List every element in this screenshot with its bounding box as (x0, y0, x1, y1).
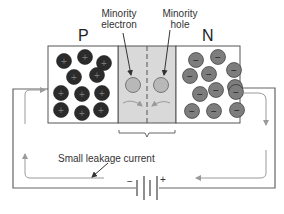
label-line: hole (158, 19, 202, 30)
electron-carrier-sign: − (189, 106, 195, 117)
battery (136, 176, 159, 200)
electron-carrier-sign: − (213, 85, 219, 96)
minority-electron-label: Minority electron (93, 8, 145, 30)
hole-carrier-sign: + (99, 88, 105, 99)
hole-carrier-sign: + (94, 70, 100, 81)
depletion-brace (119, 130, 175, 137)
electron-carrier-sign: − (234, 105, 240, 116)
hole-carrier-sign: + (71, 72, 77, 83)
hole-carrier-sign: + (101, 58, 107, 69)
electron-carrier-sign: − (206, 69, 212, 80)
electron-carrier-sign: − (187, 71, 193, 82)
p-region-label: P (78, 27, 89, 45)
minority-hole (154, 78, 169, 93)
label-line: Minority (158, 8, 202, 19)
electron-carrier-sign: − (233, 87, 239, 98)
electron-carrier-sign: − (197, 89, 203, 100)
battery-negative-sign: − (127, 176, 133, 187)
minority-electron (126, 78, 141, 93)
current-arrow-right-top (243, 93, 266, 125)
electron-carrier-sign: − (211, 106, 217, 117)
electron-carrier-sign: − (193, 55, 199, 66)
label-line: electron (93, 19, 145, 30)
hole-carrier-sign: + (82, 52, 88, 63)
electron-carrier-sign: − (215, 52, 221, 63)
minority-hole-label: Minority hole (158, 8, 202, 30)
label-line: Minority (93, 8, 145, 19)
hole-carrier-sign: + (58, 105, 64, 116)
hole-carrier-sign: + (61, 56, 67, 67)
pn-junction-diagram: +++++++++++ −−−−−−−−−−−− (0, 0, 284, 214)
n-region-label: N (202, 27, 214, 45)
hole-carrier-sign: + (98, 105, 104, 116)
hole-carrier-sign: + (58, 88, 64, 99)
hole-carrier-sign: + (79, 89, 85, 100)
current-arrow-right-bottom (196, 150, 266, 178)
leakage-pointer (92, 163, 108, 177)
electron-carrier-sign: − (231, 65, 237, 76)
hole-carrier-sign: + (79, 108, 85, 119)
leakage-current-label: Small leakage current (58, 153, 155, 164)
battery-positive-sign: + (160, 174, 166, 185)
current-arrow-left-top (25, 90, 45, 124)
